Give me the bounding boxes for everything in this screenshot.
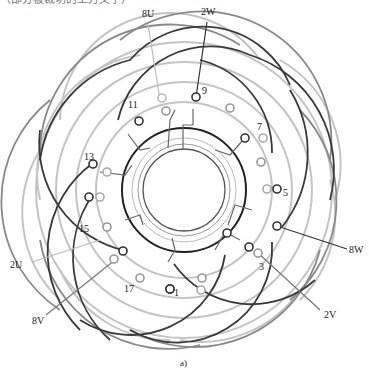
label-2u: 2U (10, 259, 23, 270)
slot-3: 3 (259, 261, 264, 272)
slot-9: 9 (202, 85, 207, 96)
winding-diagram: 8U 2W 8W 2V 2U 8V 1 3 5 7 9 11 13 15 17 (0, 0, 369, 377)
figure-caption: a) (180, 358, 187, 368)
label-2w: 2W (201, 6, 216, 17)
terminal-leads (32, 22, 347, 315)
slot-5: 5 (283, 187, 288, 198)
label-2v: 2V (324, 309, 337, 320)
slot-7: 7 (257, 121, 262, 132)
coil-arcs-dark (39, 27, 334, 343)
label-8v: 8V (32, 315, 45, 326)
slot-11: 11 (128, 99, 138, 110)
label-8w: 8W (349, 244, 364, 255)
terminal-nodes (85, 93, 281, 294)
slot-15: 15 (79, 223, 89, 234)
coil-arcs-light (22, 13, 340, 342)
label-8u: 8U (142, 8, 155, 19)
slot-labels: 1 3 5 7 9 11 13 15 17 (79, 85, 288, 298)
slot-1: 1 (174, 287, 179, 298)
slot-13: 13 (84, 151, 94, 162)
slot-17: 17 (124, 283, 134, 294)
